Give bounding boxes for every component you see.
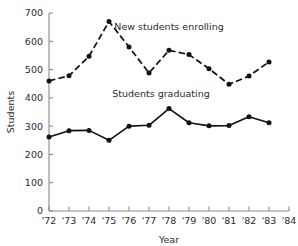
data-point-marker — [47, 78, 52, 83]
data-point-marker — [207, 66, 212, 71]
x-tick-label: '74 — [82, 215, 97, 226]
data-point-marker — [187, 52, 192, 57]
x-tick-label: '84 — [282, 215, 297, 226]
x-tick-label: '75 — [102, 215, 117, 226]
y-axis-title: Students — [5, 91, 16, 133]
x-axis-title: Year — [158, 234, 179, 245]
x-tick-label: '76 — [122, 215, 137, 226]
chart-container: 0100200300400500600700 '72'73'74'75'76'7… — [0, 0, 298, 246]
data-point-marker — [207, 123, 212, 128]
line-chart: 0100200300400500600700 '72'73'74'75'76'7… — [0, 0, 298, 246]
data-point-marker — [67, 73, 72, 78]
data-point-marker — [107, 138, 112, 143]
x-tick-label: '82 — [242, 215, 257, 226]
data-point-marker — [127, 44, 132, 49]
data-point-marker — [267, 59, 272, 64]
x-tick-label: '78 — [162, 215, 177, 226]
data-point-marker — [147, 123, 152, 128]
data-point-marker — [127, 124, 132, 129]
x-tick-label: '81 — [222, 215, 237, 226]
y-tick-label: 600 — [25, 36, 43, 47]
data-point-marker — [87, 128, 92, 133]
y-tick-label: 500 — [25, 64, 43, 75]
x-tick-label: '79 — [182, 215, 197, 226]
series-annotation-0: New students enrolling — [114, 21, 223, 32]
data-point-marker — [147, 70, 152, 75]
data-point-marker — [247, 114, 252, 119]
y-tick-label: 100 — [25, 177, 43, 188]
data-point-marker — [187, 120, 192, 125]
y-tick-label: 700 — [25, 7, 43, 18]
data-point-marker — [167, 48, 172, 53]
data-point-marker — [167, 106, 172, 111]
data-point-marker — [67, 128, 72, 133]
x-tick-label: '73 — [62, 215, 77, 226]
data-point-marker — [247, 74, 252, 79]
y-tick-label: 300 — [25, 121, 43, 132]
x-tick-label: '77 — [142, 215, 157, 226]
y-tick-label: 200 — [25, 149, 43, 160]
data-point-marker — [227, 82, 232, 87]
data-point-marker — [227, 123, 232, 128]
x-tick-label: '83 — [262, 215, 277, 226]
x-tick-label: '72 — [42, 215, 57, 226]
data-point-marker — [87, 54, 92, 59]
y-tick-label: 400 — [25, 92, 43, 103]
data-point-marker — [47, 134, 52, 139]
series-annotation-1: Students graduating — [112, 88, 209, 99]
data-point-marker — [267, 120, 272, 125]
x-tick-label: '80 — [202, 215, 217, 226]
data-point-marker — [107, 19, 112, 24]
